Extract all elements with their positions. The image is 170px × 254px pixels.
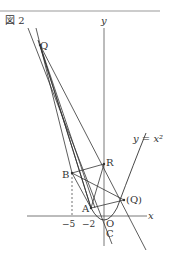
label-B: B [62,169,69,180]
line-Q-A-1 [40,45,91,208]
curve-label: y = x² [132,133,163,144]
segment-B-R [72,164,104,173]
figure-title: 図 2 [5,15,25,26]
label-Qalt: (Q) [126,194,142,205]
label-R: R [106,157,114,168]
point-R [103,163,105,165]
segment-A-R [91,164,104,208]
y-axis-label: y [100,15,107,26]
point-Qalt [123,199,125,201]
point-B [71,172,73,174]
segment-B-Qalt [72,173,124,200]
label-C: C [106,228,114,239]
line-Q-C [28,28,112,244]
tick-x-neg5: −5 [62,219,76,229]
figure-2-diagram: 図 2 y x Q R B A (Q) O C −5 −2 y = x² [0,0,170,254]
label-Q: Q [40,40,48,51]
label-A: A [81,203,90,214]
tick-x-neg2: −2 [82,219,95,229]
point-A [90,207,92,209]
line-Q-A-2 [40,45,95,208]
x-axis-label: x [148,210,154,221]
segment-A-Qalt [91,200,124,208]
